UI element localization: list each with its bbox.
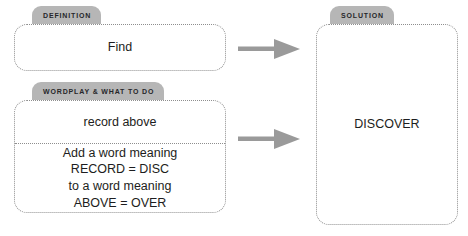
definition-box: Find [14,24,226,71]
solution-panel: SOLUTION DISCOVER [316,6,458,226]
wordplay-instruction-line: Add a word meaning [63,145,178,162]
wordplay-instruction-section: Add a word meaning RECORD = DISC to a wo… [15,144,225,212]
arrow-wordplay-to-solution [238,126,300,152]
definition-content: Find [108,39,132,56]
solution-tab-label: SOLUTION [341,12,384,19]
solution-answer: DISCOVER [354,116,419,133]
solution-tab: SOLUTION [330,6,394,25]
wordplay-box: record above Add a word meaning RECORD =… [14,100,226,213]
wordplay-clue-fragment: record above [84,114,157,131]
wordplay-clue-section: record above [15,101,225,144]
wordplay-tab: WORDPLAY & WHAT TO DO [32,82,164,101]
wordplay-instruction-line: ABOVE = OVER [63,195,178,212]
wordplay-instruction-line: to a word meaning [63,178,178,195]
wordplay-instruction-line: RECORD = DISC [63,161,178,178]
definition-tab-label: DEFINITION [43,12,91,19]
diagram-canvas: DEFINITION Find WORDPLAY & WHAT TO DO re… [0,0,468,236]
wordplay-tab-label: WORDPLAY & WHAT TO DO [43,88,154,95]
wordplay-instructions: Add a word meaning RECORD = DISC to a wo… [63,145,178,212]
definition-tab: DEFINITION [32,6,101,25]
arrow-definition-to-solution [238,36,300,62]
solution-box: DISCOVER [316,24,458,225]
definition-panel: DEFINITION Find [14,6,226,72]
wordplay-panel: WORDPLAY & WHAT TO DO record above Add a… [14,82,226,214]
